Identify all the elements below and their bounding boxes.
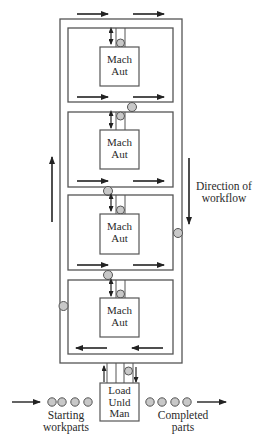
station-1-label: Mach Aut bbox=[100, 54, 139, 77]
station-3-label: Mach Aut bbox=[100, 221, 139, 244]
workpart-icon bbox=[59, 302, 68, 311]
completed-parts-label: Completed parts bbox=[153, 409, 213, 433]
direction-of-workflow-label: Direction of workflow bbox=[193, 180, 255, 204]
starting-workparts bbox=[12, 398, 92, 406]
workpart-icon bbox=[125, 367, 133, 375]
workpart-icon bbox=[117, 39, 125, 47]
load-unload-channel bbox=[104, 363, 136, 383]
workpart-icon bbox=[117, 290, 125, 298]
station-4-label: Mach Aut bbox=[100, 305, 139, 328]
starting-workparts-label: Starting workparts bbox=[36, 409, 96, 433]
workpart-icon bbox=[117, 112, 125, 120]
completed-parts bbox=[146, 398, 226, 406]
workpart-icon bbox=[104, 187, 113, 196]
workpart-icon bbox=[104, 271, 113, 280]
workpart-icon bbox=[174, 229, 183, 238]
load-station-label: Load Unld Man bbox=[100, 385, 139, 420]
station-2-label: Mach Aut bbox=[100, 137, 139, 160]
workpart-icon bbox=[128, 103, 137, 112]
workpart-icon bbox=[117, 206, 125, 214]
